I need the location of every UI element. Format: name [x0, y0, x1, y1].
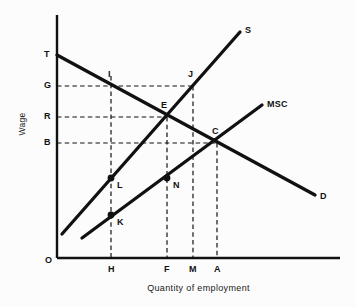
- x-tick-label-A: A: [214, 265, 221, 274]
- point-label-E: E: [161, 101, 167, 110]
- curve-label-D: D: [320, 192, 327, 201]
- curves-group: [57, 32, 315, 238]
- x-tick-label-M: M: [189, 265, 197, 274]
- marginal-social-cost-curve-MSC: [82, 105, 262, 238]
- x-tick-label-F: F: [164, 265, 170, 274]
- x-tick-label-H: H: [108, 265, 115, 274]
- plot-svg: [0, 0, 356, 307]
- y-tick-label-T: T: [44, 50, 50, 59]
- x-axis-title: Quantity of employment: [57, 283, 340, 293]
- point-label-J: J: [188, 70, 193, 79]
- point-label-C: C: [212, 127, 219, 136]
- point-label-N: N: [173, 181, 180, 190]
- point-label-K: K: [117, 218, 124, 227]
- y-tick-label-B: B: [44, 138, 51, 147]
- point-dot-N: [164, 175, 171, 182]
- diagram-canvas: Wage Quantity of employment O T G R B H …: [0, 0, 356, 307]
- demand-curve-D: [57, 55, 315, 195]
- axes-group: [57, 15, 340, 258]
- point-label-L: L: [117, 181, 123, 190]
- curve-label-S: S: [245, 26, 251, 35]
- curve-label-MSC: MSC: [267, 100, 288, 109]
- point-dot-K: [108, 212, 115, 219]
- point-dot-L: [108, 175, 115, 182]
- point-label-I: I: [108, 70, 111, 79]
- y-tick-label-G: G: [44, 81, 51, 90]
- origin-label: O: [45, 256, 52, 265]
- y-tick-label-R: R: [44, 112, 51, 121]
